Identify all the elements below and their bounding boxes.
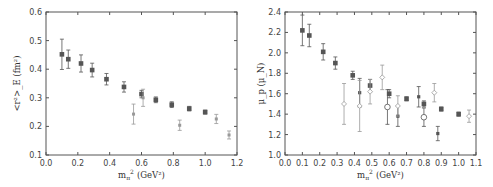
- x-tick-label: 0.8: [418, 159, 431, 168]
- x-tick-label: 0.9: [435, 159, 448, 168]
- x-tick-label: 0.6: [135, 159, 148, 168]
- y-tick-label: 2.4: [268, 8, 281, 17]
- data-point: [417, 87, 421, 107]
- left-chart-radius: 0.00.20.40.60.81.01.20.10.20.30.40.50.6m…: [12, 8, 243, 181]
- x-tick-label: 0.4: [103, 159, 116, 168]
- data-point: [395, 96, 400, 116]
- x-axis-label: mπ2(GeV²): [357, 168, 404, 181]
- data-point: [368, 79, 373, 104]
- y-tick-label: 1.8: [268, 69, 281, 78]
- data-point: [404, 97, 409, 102]
- data-point: [342, 84, 347, 125]
- data-point: [90, 63, 95, 77]
- data-point: [79, 55, 84, 72]
- data-point: [357, 80, 362, 131]
- y-axis-label: μ_p (μ_N): [256, 63, 267, 105]
- x-tick-label: 0.7: [400, 159, 413, 168]
- x-tick-label: 1.0: [199, 159, 212, 168]
- x-tick-label: 0.8: [167, 159, 180, 168]
- data-point: [333, 57, 338, 69]
- data-point: [214, 114, 218, 123]
- data-point: [132, 104, 136, 124]
- y-tick-label: 0.6: [29, 8, 42, 17]
- data-point: [350, 71, 355, 79]
- x-tick-label: 0.4: [348, 159, 361, 168]
- x-axis-label: mπ2(GeV²): [118, 168, 165, 181]
- y-tick-label: 0.5: [29, 37, 42, 46]
- y-tick-label: 0.4: [29, 65, 42, 74]
- data-point: [66, 50, 71, 68]
- data-point: [380, 65, 385, 90]
- x-tick-label: 0.3: [331, 159, 344, 168]
- y-tick-label: 0.1: [29, 151, 42, 160]
- x-tick-label: 1.0: [452, 159, 465, 168]
- x-tick-label: 0.1: [296, 159, 309, 168]
- data-point: [421, 108, 427, 126]
- x-tick-label: 0.2: [71, 159, 84, 168]
- data-point: [467, 110, 472, 122]
- data-point: [456, 112, 461, 117]
- data-point: [169, 102, 174, 108]
- y-tick-label: 0.3: [29, 94, 42, 103]
- data-point: [432, 84, 437, 102]
- y-tick-label: 1.2: [268, 131, 281, 140]
- x-tick-label: 0.5: [365, 159, 378, 168]
- data-point: [300, 15, 305, 46]
- y-tick-label: 1.4: [268, 110, 281, 119]
- plot-frame: [285, 12, 476, 155]
- data-point: [154, 97, 159, 103]
- x-tick-label: 0.0: [279, 159, 292, 168]
- x-tick-label: 0.6: [383, 159, 396, 168]
- y-axis-label: <r²>_E (fm²): [12, 55, 23, 111]
- right-chart-magnetic-moment: 0.00.10.20.30.40.50.60.70.80.91.01.11.01…: [256, 8, 482, 181]
- data-point: [178, 120, 182, 130]
- chart-figure: 0.00.20.40.60.81.01.20.10.20.30.40.50.6m…: [0, 0, 493, 187]
- series-filled-square: [60, 39, 208, 114]
- x-tick-label: 0.0: [40, 159, 53, 168]
- data-point: [122, 82, 127, 92]
- data-point: [422, 101, 427, 107]
- y-tick-label: 1.0: [268, 151, 281, 160]
- y-tick-label: 2.0: [268, 49, 281, 58]
- data-point: [227, 131, 231, 139]
- data-point: [307, 24, 312, 46]
- data-point: [436, 126, 440, 140]
- x-tick-label: 1.2: [231, 159, 244, 168]
- x-tick-label: 0.2: [313, 159, 326, 168]
- plot-frame: [46, 12, 237, 155]
- data-point: [60, 39, 65, 69]
- data-point: [187, 106, 192, 111]
- x-tick-label: 1.1: [470, 159, 483, 168]
- y-tick-label: 1.6: [268, 90, 281, 99]
- data-point: [321, 44, 326, 60]
- y-tick-label: 0.2: [29, 122, 42, 131]
- y-tick-label: 2.2: [268, 28, 281, 37]
- series-small-cross: [132, 89, 232, 139]
- data-point: [104, 73, 109, 84]
- data-point: [203, 110, 208, 115]
- series-filled-square: [300, 15, 461, 116]
- data-point: [439, 107, 444, 112]
